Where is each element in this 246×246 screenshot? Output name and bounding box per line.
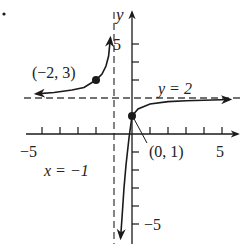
stray-dot (2, 12, 5, 15)
y-axis-label: y (114, 5, 124, 24)
y-tick-label-neg5: −5 (144, 216, 161, 233)
x-tick-label-5: 5 (216, 143, 224, 160)
function-graph: y 5 −5 −5 5 y = 2 x = −1 (−2, 3) (0, 1) (0, 0, 246, 246)
horizontal-asymptote-label: y = 2 (156, 80, 192, 98)
point-neg2-3 (92, 76, 100, 84)
point-label-neg2-3: (−2, 3) (32, 64, 76, 82)
point-0-1 (128, 112, 136, 120)
y-tick-label-5: 5 (113, 36, 121, 53)
point-label-0-1: (0, 1) (149, 143, 184, 161)
vertical-asymptote-label: x = −1 (43, 162, 89, 179)
x-tick-label-neg5: −5 (20, 143, 37, 160)
curve-right-branch (121, 100, 230, 239)
leader-line (133, 117, 147, 143)
